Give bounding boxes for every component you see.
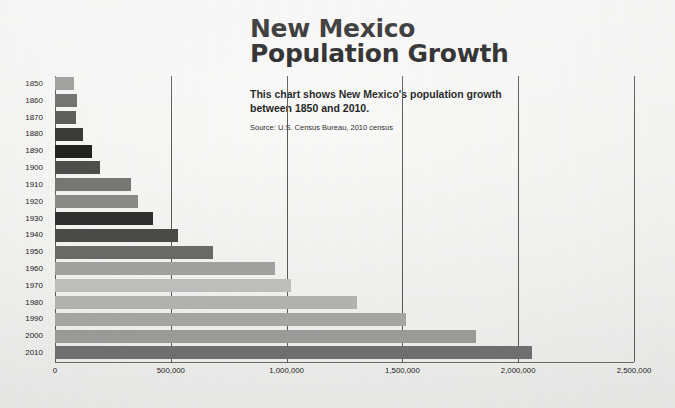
bar-row: [55, 110, 634, 127]
bar: [55, 229, 178, 242]
bar-row: [55, 278, 634, 295]
bar-row: [55, 227, 634, 244]
y-axis-tick-label: 1950: [0, 244, 49, 261]
bar-row: [55, 177, 634, 194]
bar-row: [55, 244, 634, 261]
bar: [55, 313, 406, 326]
page-title: New Mexico Population Growth: [250, 16, 650, 66]
x-axis-tick-label: 1,000,000: [269, 366, 304, 375]
bar-row: [55, 345, 634, 362]
y-axis-tick-label: 1860: [0, 93, 49, 110]
x-axis-tick-label: 2,500,000: [617, 366, 652, 375]
bar: [55, 94, 77, 107]
bar: [55, 279, 291, 292]
y-axis-tick-label: 1960: [0, 261, 49, 278]
bar: [55, 346, 532, 359]
y-axis-tick-label: 1910: [0, 177, 49, 194]
y-axis-tick-label: 1900: [0, 160, 49, 177]
bar: [55, 111, 76, 124]
y-axis-tick-label: 1880: [0, 126, 49, 143]
y-axis-tick-label: 1850: [0, 76, 49, 93]
bar: [55, 145, 92, 158]
title-block: New Mexico Population Growth: [250, 16, 650, 66]
bar-row: [55, 126, 634, 143]
bar: [55, 246, 213, 259]
plot-area: [55, 76, 634, 362]
bar-row: [55, 328, 634, 345]
y-axis-tick-label: 1890: [0, 143, 49, 160]
bar: [55, 178, 131, 191]
bar-row: [55, 93, 634, 110]
x-axis-tick-label: 500,000: [157, 366, 185, 375]
bar: [55, 77, 74, 90]
bar: [55, 330, 476, 343]
y-axis-tick-label: 2000: [0, 328, 49, 345]
y-axis-tick-label: 1940: [0, 227, 49, 244]
bar-row: [55, 76, 634, 93]
x-axis-tick-label: 1,500,000: [385, 366, 420, 375]
y-axis-tick-label: 1990: [0, 311, 49, 328]
bar-rows: [55, 76, 634, 362]
bar-row: [55, 211, 634, 228]
y-axis-tick-label: 1970: [0, 278, 49, 295]
bar-row: [55, 194, 634, 211]
y-axis-tick-label: 1870: [0, 110, 49, 127]
gridline: [634, 76, 635, 362]
bar: [55, 262, 275, 275]
y-axis-tick-label: 2010: [0, 345, 49, 362]
bar-row: [55, 311, 634, 328]
y-axis-tick-label: 1920: [0, 194, 49, 211]
chart-page: New Mexico Population Growth This chart …: [0, 0, 675, 408]
bar: [55, 195, 138, 208]
y-axis-tick-label: 1930: [0, 211, 49, 228]
x-axis-tick-labels: 0500,0001,000,0001,500,0002,000,0002,500…: [55, 366, 634, 382]
x-axis-tick-label: 2,000,000: [501, 366, 536, 375]
bar: [55, 128, 83, 141]
bar: [55, 296, 357, 309]
bar-row: [55, 143, 634, 160]
bar-row: [55, 160, 634, 177]
bar-row: [55, 261, 634, 278]
x-axis-tick-label: 0: [53, 366, 57, 375]
y-axis-year-labels: 1850186018701880189019001910192019301940…: [0, 76, 49, 362]
x-axis-line: [55, 362, 634, 363]
bar: [55, 161, 100, 174]
bar: [55, 212, 153, 225]
bar-row: [55, 295, 634, 312]
y-axis-tick-label: 1980: [0, 295, 49, 312]
